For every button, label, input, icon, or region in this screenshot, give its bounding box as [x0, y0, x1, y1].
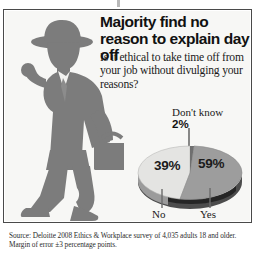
- source-note: Source: Deloitte 2008 Ethics & Workplace…: [9, 231, 241, 249]
- print-artifact: [117, 0, 120, 7]
- dont-know-label: Don't know: [172, 106, 223, 118]
- subtitle-question: Is it ethical to take time off from your…: [100, 51, 250, 91]
- slice-label-no: No: [152, 208, 165, 220]
- slice-value-no: 39%: [154, 158, 180, 173]
- slice-label-yes: Yes: [200, 208, 216, 220]
- pie-chart: [132, 126, 250, 212]
- infographic-panel: Majority find no reason to explain day o…: [3, 9, 252, 223]
- infographic-page: Majority find no reason to explain day o…: [0, 0, 255, 262]
- slice-value-yes: 59%: [198, 156, 224, 171]
